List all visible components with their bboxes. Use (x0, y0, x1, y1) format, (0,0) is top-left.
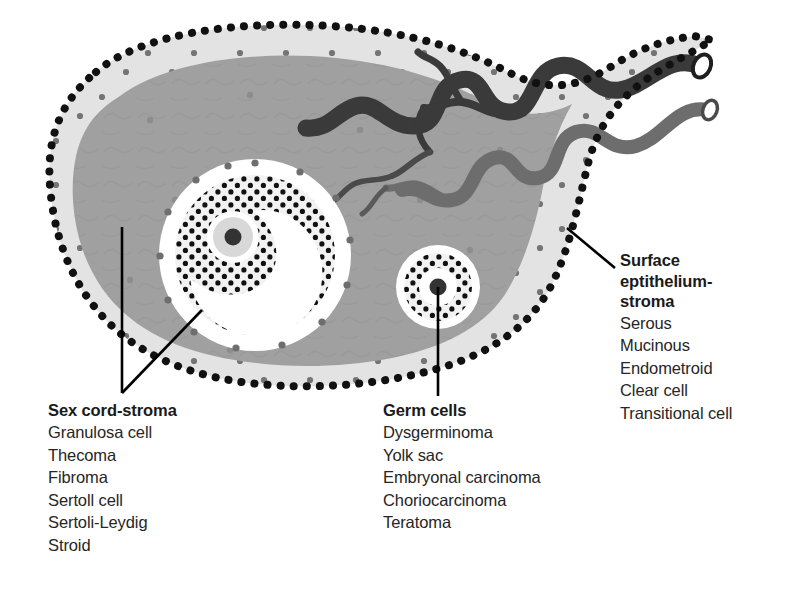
sex-cord-item-3: Sertoll cell (48, 489, 177, 512)
surface-heading-line-2: stroma (620, 291, 780, 312)
surface-item-0: Serous (620, 312, 780, 335)
leader-surface-epithelium (567, 228, 615, 268)
figure-canvas: Sex cord-stroma Granulosa cell Thecoma F… (0, 0, 788, 601)
germ-cells-item-3: Choriocarcinoma (383, 489, 541, 512)
surface-heading-line-0: Surface (620, 250, 780, 271)
sex-cord-heading: Sex cord-stroma (48, 400, 177, 421)
label-surface-epithelium-stroma: Surface eptithelium- stroma Serous Mucin… (620, 250, 780, 424)
surface-heading-line-1: eptithelium- (620, 271, 780, 292)
sex-cord-item-0: Granulosa cell (48, 421, 177, 444)
surface-item-2: Endometroid (620, 357, 780, 380)
sex-cord-item-5: Stroid (48, 534, 177, 557)
germ-cells-heading: Germ cells (383, 400, 541, 421)
germ-cells-item-0: Dysgerminoma (383, 421, 541, 444)
label-sex-cord-stroma: Sex cord-stroma Granulosa cell Thecoma F… (48, 400, 177, 556)
surface-item-1: Mucinous (620, 334, 780, 357)
label-germ-cells: Germ cells Dysgerminoma Yolk sac Embryon… (383, 400, 541, 534)
sex-cord-item-1: Thecoma (48, 444, 177, 467)
surface-item-3: Clear cell (620, 379, 780, 402)
sex-cord-item-4: Sertoli-Leydig (48, 511, 177, 534)
sex-cord-item-2: Fibroma (48, 466, 177, 489)
germ-cells-item-4: Teratoma (383, 511, 541, 534)
germ-cells-item-2: Embryonal carcinoma (383, 466, 541, 489)
surface-item-4: Transitional cell (620, 402, 780, 425)
germ-cells-item-1: Yolk sac (383, 444, 541, 467)
